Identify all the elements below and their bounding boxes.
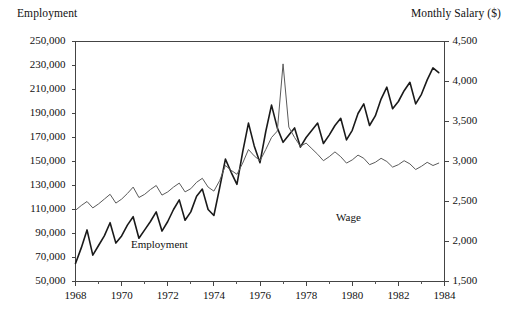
x-axis-tick-label: 1978	[283, 289, 329, 301]
x-axis-tick-label: 1970	[99, 289, 145, 301]
x-axis-tick-label: 1976	[237, 289, 283, 301]
y-axis-tick-label: 170,000	[8, 130, 66, 142]
series-line-wage	[76, 64, 439, 210]
y2-axis-tick-label: 4,500	[453, 34, 507, 46]
x-axis-tick-label: 1974	[191, 289, 237, 301]
y2-axis-tick-label: 3,500	[453, 114, 507, 126]
y-axis-tick-label: 150,000	[8, 154, 66, 166]
y-axis-tick-label: 190,000	[8, 106, 66, 118]
y2-axis-tick-label: 4,000	[453, 74, 507, 86]
y-axis-tick-label: 110,000	[8, 202, 66, 214]
series-label-employment: Employment	[131, 238, 188, 250]
series-label-wage: Wage	[336, 211, 361, 223]
y-axis-tick-label: 250,000	[8, 34, 66, 46]
plot-area	[0, 0, 507, 317]
x-axis-tick-label: 1984	[422, 289, 468, 301]
x-axis-tick-label: 1980	[329, 289, 375, 301]
y-axis-tick-label: 90,000	[8, 226, 66, 238]
x-axis-tick-label: 1982	[375, 289, 421, 301]
x-axis-tick-label: 1972	[145, 289, 191, 301]
y-axis-tick-label: 50,000	[8, 274, 66, 286]
series-line-employment	[76, 68, 439, 264]
y2-axis-tick-label: 2,000	[453, 234, 507, 246]
y-axis-tick-label: 210,000	[8, 82, 66, 94]
y-axis-tick-label: 70,000	[8, 250, 66, 262]
y2-axis-tick-label: 2,500	[453, 194, 507, 206]
y2-axis-tick-label: 1,500	[453, 274, 507, 286]
y-axis-tick-label: 130,000	[8, 178, 66, 190]
y-axis-tick-label: 230,000	[8, 58, 66, 70]
chart-container: Employment Monthly Salary ($) Employment…	[0, 0, 507, 317]
x-axis-tick-label: 1968	[53, 289, 99, 301]
y2-axis-tick-label: 3,000	[453, 154, 507, 166]
